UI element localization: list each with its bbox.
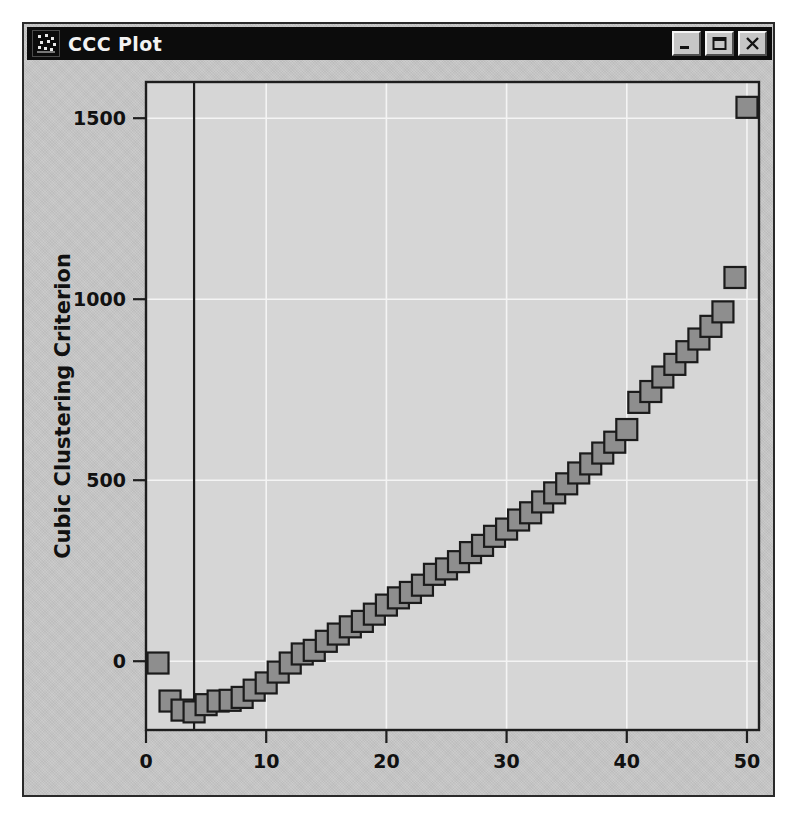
close-icon [744, 36, 761, 51]
minimize-button[interactable] [672, 31, 701, 56]
x-tick-label: 40 [614, 750, 640, 772]
y-tick-label: 1500 [73, 107, 126, 129]
maximize-icon [711, 36, 728, 51]
y-tick-label: 500 [86, 469, 126, 491]
data-point [148, 653, 169, 674]
data-point [736, 97, 757, 118]
plot-background [146, 82, 759, 730]
x-tick-label: 20 [373, 750, 399, 772]
ccc-scatter-chart: 01020304050050010001500 Number of Cluste… [24, 60, 773, 795]
x-tick-label: 10 [253, 750, 279, 772]
minimize-icon [678, 36, 695, 51]
chart-area: 01020304050050010001500 Number of Cluste… [24, 60, 773, 795]
window-controls [672, 31, 772, 56]
x-tick-label: 30 [493, 750, 519, 772]
x-tick-label: 50 [734, 750, 760, 772]
close-button[interactable] [738, 31, 767, 56]
y-axis-title: Cubic Clustering Criterion [51, 253, 75, 559]
maximize-button[interactable] [705, 31, 734, 56]
page-root: CCC Plot [0, 0, 797, 819]
y-tick-label: 1000 [73, 288, 126, 310]
ccc-plot-window: CCC Plot [22, 22, 775, 797]
window-titlebar[interactable]: CCC Plot [27, 27, 772, 60]
data-point [616, 419, 637, 440]
scatter-plot-icon [32, 30, 60, 57]
data-point [712, 301, 733, 322]
y-tick-label: 0 [113, 650, 126, 672]
window-title: CCC Plot [68, 33, 162, 55]
data-point [724, 267, 745, 288]
x-tick-label: 0 [139, 750, 152, 772]
